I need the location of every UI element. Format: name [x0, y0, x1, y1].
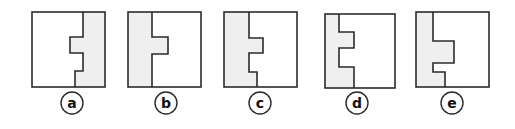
- option-a[interactable]: a: [32, 12, 105, 114]
- option-e[interactable]: e: [416, 12, 489, 114]
- option-label-badge[interactable]: c: [249, 92, 271, 114]
- option-label: d: [352, 95, 362, 111]
- option-label-badge[interactable]: e: [441, 92, 463, 114]
- puzzle-figure: abcde: [0, 0, 515, 129]
- option-label-badge[interactable]: a: [61, 92, 83, 114]
- option-label: b: [161, 95, 171, 111]
- option-label-badge[interactable]: d: [346, 92, 368, 114]
- option-label-badge[interactable]: b: [155, 92, 177, 114]
- option-label: a: [67, 95, 76, 111]
- option-label: e: [447, 95, 457, 111]
- option-d[interactable]: d: [325, 14, 395, 114]
- option-label: c: [256, 95, 264, 111]
- option-b[interactable]: b: [128, 12, 201, 114]
- option-c[interactable]: c: [224, 12, 297, 114]
